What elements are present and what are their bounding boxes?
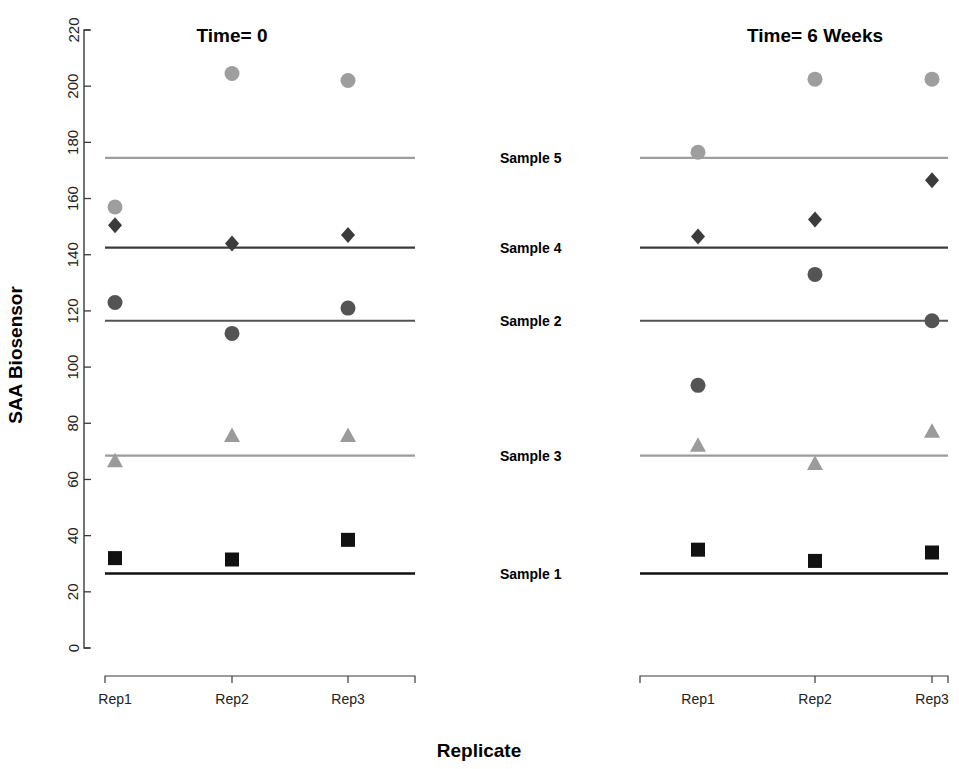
y-tick-label: 60: [65, 471, 82, 488]
data-point-sample-4-time0-rep3: [341, 227, 355, 243]
reference-lines: [105, 158, 948, 574]
y-tick-label: 100: [65, 355, 82, 380]
y-tick-label: 180: [65, 130, 82, 155]
x-axis-line-right: [640, 676, 948, 683]
data-point-sample-2-time0-rep1: [108, 295, 123, 310]
data-point-sample-3-time0-rep2: [224, 427, 240, 442]
data-point-sample-2-time0-rep3: [341, 301, 356, 316]
y-tick-label: 160: [65, 186, 82, 211]
data-point-sample-4-time6w-rep3: [925, 172, 939, 188]
x-axis-line-left: [105, 676, 415, 683]
y-tick-label: 140: [65, 242, 82, 267]
y-tick-label: 80: [65, 415, 82, 432]
data-point-sample-1-time6w-rep2: [808, 554, 822, 568]
data-point-sample-5-time6w-rep1: [691, 145, 706, 160]
x-tick-label-left-rep3: Rep3: [331, 691, 365, 707]
series-label-sample-5: Sample 5: [500, 150, 562, 166]
saa-biosensor-scatter-chart: 020406080100120140160180200220 SAA Biose…: [0, 0, 959, 769]
data-point-sample-1-time0-rep2: [225, 553, 239, 567]
data-point-sample-2-time6w-rep2: [808, 267, 823, 282]
x-tick-label-right-rep1: Rep1: [681, 691, 715, 707]
data-point-sample-3-time6w-rep2: [807, 456, 823, 471]
x-axes: [105, 676, 948, 683]
y-tick-label: 220: [65, 17, 82, 42]
series-legend: Sample 5Sample 4Sample 2Sample 3Sample 1: [500, 150, 562, 582]
data-point-sample-5-time0-rep3: [341, 73, 356, 88]
data-point-sample-4-time0-rep1: [108, 217, 122, 233]
data-point-sample-5-time0-rep1: [108, 199, 123, 214]
data-point-sample-4-time6w-rep2: [808, 212, 822, 228]
data-point-sample-1-time0-rep1: [108, 551, 122, 565]
x-tick-label-right-rep2: Rep2: [798, 691, 832, 707]
y-tick-label: 20: [65, 583, 82, 600]
x-tick-label-right-rep3: Rep3: [915, 691, 949, 707]
series-label-sample-1: Sample 1: [500, 566, 562, 582]
data-point-sample-2-time0-rep2: [225, 326, 240, 341]
data-point-sample-3-time6w-rep3: [924, 423, 940, 438]
data-point-sample-2-time6w-rep1: [691, 378, 706, 393]
data-point-sample-2-time6w-rep3: [925, 313, 940, 328]
data-point-sample-3-time6w-rep1: [690, 437, 706, 452]
series-label-sample-4: Sample 4: [500, 240, 562, 256]
x-tick-label-left-rep1: Rep1: [98, 691, 132, 707]
data-point-sample-4-time0-rep2: [225, 235, 239, 251]
data-point-sample-5-time0-rep2: [225, 66, 240, 81]
panel-title-time-0: Time= 0: [197, 25, 268, 46]
series-label-sample-2: Sample 2: [500, 313, 562, 329]
data-point-sample-1-time6w-rep3: [925, 545, 939, 559]
y-axis-title: SAA Biosensor: [5, 286, 26, 424]
data-point-sample-1-time0-rep3: [341, 533, 355, 547]
data-point-sample-1-time6w-rep1: [691, 543, 705, 557]
chart-root: 020406080100120140160180200220 SAA Biose…: [0, 0, 959, 769]
y-tick-label: 40: [65, 527, 82, 544]
y-tick-label: 120: [65, 298, 82, 323]
panel-title-time-6-weeks: Time= 6 Weeks: [747, 25, 883, 46]
data-point-sample-3-time0-rep3: [340, 427, 356, 442]
series-label-sample-3: Sample 3: [500, 448, 562, 464]
data-point-sample-5-time6w-rep3: [925, 72, 940, 87]
x-axis-title: Replicate: [437, 740, 521, 761]
x-tick-labels: Rep1Rep2Rep3Rep1Rep2Rep3: [98, 691, 949, 707]
x-tick-label-left-rep2: Rep2: [215, 691, 249, 707]
y-tick-label: 200: [65, 74, 82, 99]
data-point-sample-5-time6w-rep2: [808, 72, 823, 87]
y-tick-label: 0: [65, 644, 82, 652]
y-axis: 020406080100120140160180200220: [65, 17, 92, 652]
data-point-sample-4-time6w-rep1: [691, 228, 705, 244]
